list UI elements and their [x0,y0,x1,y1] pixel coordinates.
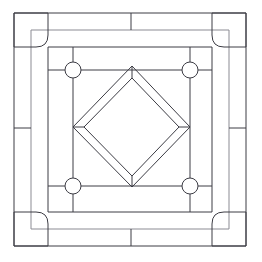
node-top-left-circle [65,62,81,78]
node-bottom-right-circle [182,178,198,194]
tile-pattern-drawing [0,0,262,262]
node-bottom-left-circle [65,178,81,194]
node-top-right-circle [182,62,198,78]
canvas-background [0,0,262,262]
pattern-canvas [0,0,262,262]
